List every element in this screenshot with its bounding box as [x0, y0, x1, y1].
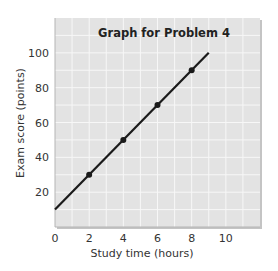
y-axis-ticks: 20406080100 [28, 47, 49, 199]
y-tick-label: 20 [35, 186, 49, 199]
data-point [120, 137, 126, 143]
x-tick-label: 0 [52, 232, 59, 245]
y-tick-label: 100 [28, 47, 49, 60]
x-axis-ticks: 0246810 [52, 232, 233, 245]
chart: Graph for Problem 4 0246810 20406080100 … [0, 0, 278, 271]
x-tick-label: 8 [188, 232, 195, 245]
x-axis-label: Study time (hours) [90, 247, 193, 260]
x-tick-label: 6 [154, 232, 161, 245]
x-tick-label: 10 [219, 232, 233, 245]
data-point [155, 102, 161, 108]
x-tick-label: 4 [120, 232, 127, 245]
data-point [86, 172, 92, 178]
chart-title: Graph for Problem 4 [98, 26, 230, 40]
y-tick-label: 80 [35, 82, 49, 95]
data-point [189, 67, 195, 73]
y-tick-label: 60 [35, 117, 49, 130]
y-tick-label: 40 [35, 151, 49, 164]
y-axis-label: Exam score (points) [14, 68, 27, 178]
x-tick-label: 2 [86, 232, 93, 245]
